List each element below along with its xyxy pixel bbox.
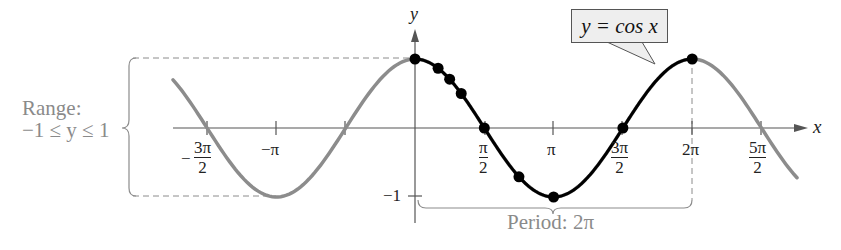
x-axis-label: x (813, 116, 821, 138)
tick-label-5pi-2: 5π2 (749, 139, 766, 176)
key-point (513, 171, 524, 182)
callout-text: y = cos x (581, 14, 658, 38)
callout-pointer (607, 42, 655, 64)
key-point (444, 74, 455, 85)
tick-label-2pi: 2π (682, 140, 699, 160)
range-guides (133, 58, 692, 200)
key-point (410, 54, 421, 65)
key-point (617, 123, 628, 134)
y-tick-label-neg1: −1 (383, 186, 401, 206)
tick-label-neg-3pi-2: 3π2 (194, 139, 211, 176)
cosine-graph (0, 0, 841, 250)
key-point (687, 54, 698, 65)
tick-label-3pi-2: 3π2 (611, 139, 628, 176)
key-point (479, 123, 490, 134)
x-axis (173, 124, 808, 132)
y-axis-label: y (410, 4, 418, 25)
tick-label-pi-2: π2 (479, 139, 488, 176)
tick-label-neg-pi: −π (261, 140, 279, 160)
key-point (548, 192, 559, 203)
period-label: Period: 2π (507, 210, 594, 235)
function-callout: y = cos x (571, 9, 668, 43)
range-value: −1 ≤ y ≤ 1 (22, 118, 109, 143)
range-brace (122, 58, 136, 196)
key-point (433, 63, 444, 74)
tick-neg-3pi-2-minus: − (181, 149, 191, 169)
tick-label-pi: π (547, 140, 556, 160)
key-point (456, 88, 467, 99)
